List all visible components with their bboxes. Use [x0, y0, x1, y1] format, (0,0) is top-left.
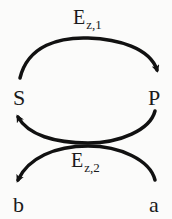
node-p: P [148, 87, 160, 109]
energy-label-top: Ez,1 [73, 7, 102, 27]
node-s: S [13, 87, 25, 109]
arrow-p-to-s [18, 111, 155, 143]
energy-bottom-main: E [71, 149, 83, 171]
energy-top-sub: z,1 [86, 17, 102, 32]
arrow-s-to-p [20, 38, 157, 78]
node-b: b [13, 194, 24, 216]
energy-bottom-sub: z,2 [84, 160, 100, 175]
node-a: a [149, 194, 159, 216]
energy-top-main: E [73, 6, 85, 28]
energy-label-bottom: Ez,2 [71, 150, 100, 170]
reaction-diagram: Ez,1 S P Ez,2 b a [0, 0, 172, 219]
arrow-layer [0, 0, 172, 219]
